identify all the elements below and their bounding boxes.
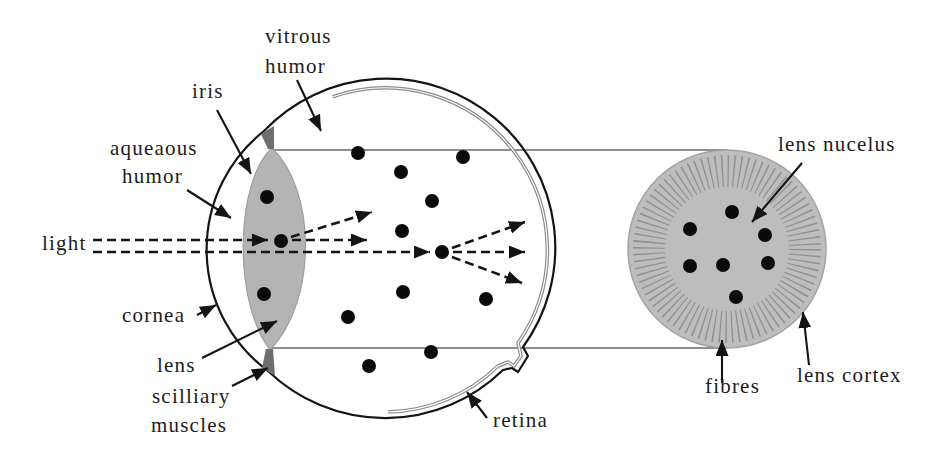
lens-cross-section	[628, 150, 826, 348]
particle-dot	[351, 146, 365, 160]
particle-dot	[260, 190, 274, 204]
label-aqueous-humor-line2: humor	[122, 164, 183, 188]
scattered-ray-down-2	[452, 257, 522, 283]
label-cornea: cornea	[122, 303, 185, 327]
label-vitreous-humor-line1: vitrous	[265, 24, 332, 48]
arrow-aqueous-humor	[187, 190, 231, 218]
particle-dot	[758, 228, 772, 242]
particle-dot	[341, 310, 355, 324]
particle-dot	[362, 359, 376, 373]
particle-dot	[394, 165, 408, 179]
particle-dot	[274, 234, 288, 248]
label-lens: lens	[157, 353, 196, 377]
particle-dot	[683, 222, 697, 236]
particle-dot	[396, 285, 410, 299]
arrow-vitreous-humor	[297, 80, 321, 131]
label-ciliary-muscles-line1: scilliary	[152, 384, 230, 408]
label-lens-cortex: lens cortex	[797, 363, 902, 387]
eye-lens-shape	[243, 148, 305, 350]
label-retina: retina	[493, 408, 548, 432]
label-lens-nucleus: lens nucelus	[778, 132, 896, 156]
ciliary-muscle-wedge-bottom	[262, 349, 275, 376]
particle-dot	[456, 150, 470, 164]
particle-dot	[257, 287, 271, 301]
particle-dot	[761, 256, 775, 270]
label-iris: iris	[192, 79, 224, 103]
particle-dot	[479, 292, 493, 306]
arrow-cornea	[197, 305, 216, 315]
diagram-svg: vitrous humor iris aqueaous humor light …	[0, 0, 932, 455]
arrow-lens-cortex	[803, 312, 809, 365]
scattered-ray-up-2	[452, 222, 525, 248]
label-aqueous-humor-line1: aqueaous	[110, 136, 198, 160]
arrow-ciliary-muscles	[232, 368, 268, 386]
particle-dot	[725, 205, 739, 219]
iris-wedge-top	[261, 126, 274, 149]
label-fibres: fibres	[705, 374, 760, 398]
light-rays	[93, 212, 525, 283]
particle-dot	[425, 194, 439, 208]
label-vitreous-humor-line2: humor	[265, 54, 326, 78]
particle-dot	[716, 258, 730, 272]
eye-lens-diagram: vitrous humor iris aqueaous humor light …	[0, 0, 932, 455]
label-light: light	[42, 231, 87, 255]
particle-dot	[424, 345, 438, 359]
particle-dot	[683, 259, 697, 273]
arrow-retina	[467, 392, 487, 418]
particle-dot	[435, 245, 449, 259]
particle-dot	[395, 224, 409, 238]
particle-dot	[729, 290, 743, 304]
label-ciliary-muscles-line2: muscles	[151, 413, 227, 437]
